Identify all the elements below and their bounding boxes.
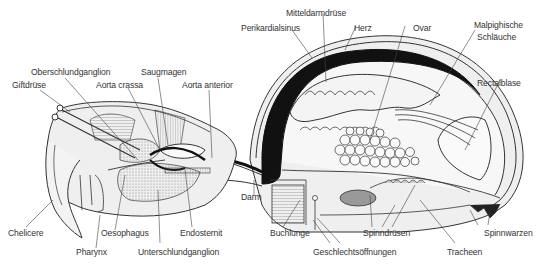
label-oberschlundganglion: Oberschlundganglion [31,67,110,77]
spider-anatomy-diagram: Perikardialsinus Mitteldarmdrüse Herz Ov… [0,0,541,266]
label-giftdruese: Giftdrüse [12,80,46,90]
label-spinndruesen: Spinndrüsen [363,228,410,238]
spider-anatomy-drawing [0,0,541,266]
label-herz: Herz [354,23,372,33]
label-ovar: Ovar [413,23,431,33]
label-mitteldarmdruese: Mitteldarmdrüse [286,8,346,18]
label-endosternit: Endosternit [180,228,222,238]
label-darm: Darm [241,192,262,202]
label-pharynx: Pharynx [76,247,107,257]
label-perikardialsinus: Perikardialsinus [241,23,300,33]
label-spinnwarzen: Spinnwarzen [484,228,533,238]
label-geschlechtsoeffnungen: Geschlechtsöffnungen [313,247,396,257]
label-rectalblase: Rectalblase [477,78,521,88]
label-chelicere: Chelicere [8,228,43,238]
label-schlaeuche: Schläuche [477,32,516,42]
label-oesophagus: Oesophagus [101,228,149,238]
label-saugmagen: Saugmagen [141,67,186,77]
label-tracheen: Tracheen [447,247,482,257]
label-malpighische: Malpighische [474,20,523,30]
label-aorta-crassa: Aorta crassa [96,80,143,90]
label-unterschlundganglion: Unterschlundganglion [138,247,219,257]
label-aorta-anterior: Aorta anterior [182,80,233,90]
label-buchlunge: Buchlunge [270,228,310,238]
abdomen [250,36,523,232]
